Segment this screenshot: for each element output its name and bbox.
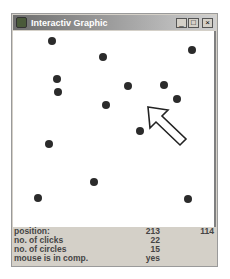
close-button[interactable]: ×: [202, 18, 213, 28]
circle: [90, 178, 98, 186]
circle: [173, 95, 181, 103]
circle: [34, 194, 42, 202]
maximize-button[interactable]: □: [188, 18, 199, 28]
circle: [99, 53, 107, 61]
app-icon: [16, 17, 27, 28]
circle: [160, 81, 168, 89]
circle: [124, 82, 132, 90]
mouse-in-row: mouse is in comp. yes: [13, 254, 216, 263]
circle: [102, 101, 110, 109]
position-y: 114: [160, 227, 216, 236]
circle: [184, 195, 192, 203]
minimize-button[interactable]: _: [176, 18, 187, 28]
circle: [136, 127, 144, 135]
circle: [48, 37, 56, 45]
circle: [188, 46, 196, 54]
arrow-cursor-icon: [146, 105, 190, 147]
window-title: Interactiv Graphic: [31, 18, 176, 28]
circle: [53, 75, 61, 83]
status-panel: position: 213 114 no. of clicks 22 no. o…: [13, 227, 216, 263]
app-window: Interactiv Graphic _ □ × position: 213 1…: [11, 13, 218, 267]
mouse-in-value: yes: [124, 254, 160, 263]
mouse-in-label: mouse is in comp.: [13, 254, 124, 263]
drawing-canvas[interactable]: [13, 31, 216, 227]
title-bar[interactable]: Interactiv Graphic _ □ ×: [13, 15, 216, 30]
circle: [45, 140, 53, 148]
circle: [54, 88, 62, 96]
